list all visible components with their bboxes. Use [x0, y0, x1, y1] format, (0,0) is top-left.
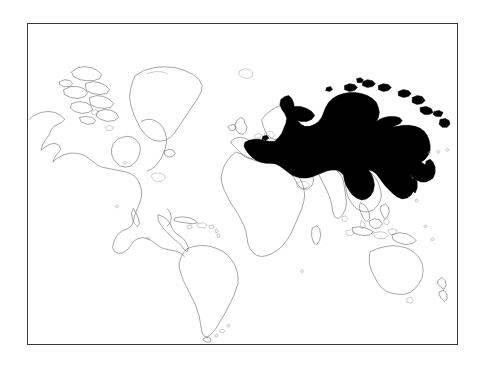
region-central-america-caribbean: [158, 215, 220, 252]
region-iceland: [239, 69, 253, 79]
region-canadian-arctic: [60, 67, 119, 131]
world-locator-map: World map with Russia highlighted Black-…: [0, 0, 480, 370]
region-south-america: [179, 246, 238, 342]
region-australia-oceania: [369, 225, 447, 304]
region-north-america: [29, 111, 184, 256]
world-map-svg: [28, 24, 457, 344]
region-russia-highlighted: [244, 78, 450, 200]
region-indonesia: [347, 219, 417, 245]
map-frame-border: [27, 23, 458, 345]
region-greenland: [130, 67, 203, 142]
